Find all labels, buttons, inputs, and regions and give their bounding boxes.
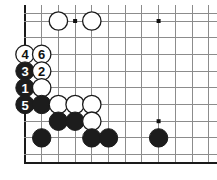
- black-stone: [99, 129, 117, 147]
- stone-white-w-b[interactable]: [49, 95, 67, 113]
- move-number-label: 2: [38, 64, 45, 79]
- black-stone: [149, 129, 167, 147]
- white-stone: [83, 12, 101, 30]
- star-point-top-right: [157, 19, 161, 23]
- black-stone: [49, 112, 67, 130]
- move-stone-1[interactable]: 1: [16, 79, 34, 97]
- black-stone: [83, 129, 101, 147]
- stone-white-w-top-2[interactable]: [83, 12, 101, 30]
- white-stone: [49, 12, 67, 30]
- black-stone: [66, 112, 84, 130]
- white-stone: [83, 95, 101, 113]
- goban-canvas[interactable]: 463215: [0, 0, 217, 180]
- white-stone: [66, 95, 84, 113]
- move-number-label: 6: [38, 47, 45, 62]
- move-number-label: 1: [21, 81, 28, 96]
- stone-white-w-e[interactable]: [83, 112, 101, 130]
- go-board-diagram: 463215: [0, 0, 217, 180]
- white-stone: [83, 112, 101, 130]
- black-stone: [33, 129, 51, 147]
- move-stone-4[interactable]: 4: [16, 45, 34, 63]
- move-stone-3[interactable]: 3: [16, 62, 34, 80]
- stone-black-b-a[interactable]: [33, 95, 51, 113]
- move-stone-5[interactable]: 5: [16, 95, 34, 113]
- star-point-top: [73, 19, 77, 23]
- stone-white-w-a[interactable]: [33, 79, 51, 97]
- stone-black-b-d[interactable]: [33, 129, 51, 147]
- move-number-label: 3: [21, 64, 28, 79]
- white-stone: [33, 79, 51, 97]
- stone-white-w-c[interactable]: [66, 95, 84, 113]
- stone-black-b-e[interactable]: [83, 129, 101, 147]
- black-stone: [33, 95, 51, 113]
- star-point-lower-right: [157, 119, 161, 123]
- stone-black-b-c[interactable]: [66, 112, 84, 130]
- move-stone-6[interactable]: 6: [33, 45, 51, 63]
- white-stone: [49, 95, 67, 113]
- stone-white-w-d[interactable]: [83, 95, 101, 113]
- move-number-label: 4: [21, 47, 29, 62]
- move-stone-2[interactable]: 2: [33, 62, 51, 80]
- stone-white-w-top-1[interactable]: [49, 12, 67, 30]
- move-number-label: 5: [21, 98, 28, 113]
- stone-black-b-f[interactable]: [99, 129, 117, 147]
- stone-black-b-b[interactable]: [49, 112, 67, 130]
- stone-black-b-g[interactable]: [149, 129, 167, 147]
